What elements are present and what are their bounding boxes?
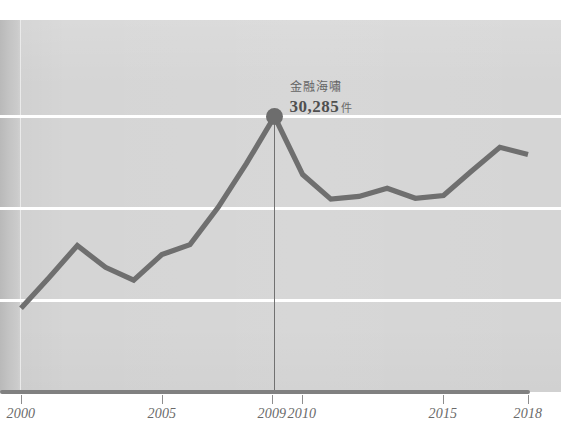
x-axis-label-2015: 2015: [429, 406, 458, 422]
x-axis-label-2010: 2010: [288, 406, 317, 422]
x-axis-label-2018: 2018: [514, 406, 543, 422]
x-axis-label-2000: 2000: [7, 406, 36, 422]
peak-marker-dot: [266, 108, 283, 125]
x-axis-tick-2010: [302, 395, 303, 404]
annotation-financial-crisis: 金融海嘯 30,285件: [290, 77, 353, 117]
annotation-drop-line: [274, 117, 275, 393]
line-chart: 金融海嘯 30,285件 200020052009201020152018: [0, 0, 561, 434]
annotation-value-unit: 件: [341, 102, 353, 115]
x-axis-tick-2018: [528, 395, 529, 404]
annotation-label: 金融海嘯: [290, 77, 353, 94]
x-axis-tick-2005: [162, 395, 163, 404]
x-axis-tick-2009: [272, 395, 273, 404]
x-axis-label-2009: 2009: [258, 406, 287, 422]
x-axis-tick-2000: [21, 395, 22, 404]
x-axis-line: [0, 390, 530, 394]
x-axis-label-2005: 2005: [148, 406, 177, 422]
series-line-layer: [0, 0, 561, 434]
x-axis-tick-2015: [443, 395, 444, 404]
annotation-value: 30,285件: [290, 97, 353, 117]
annotation-value-number: 30,285: [290, 97, 340, 116]
